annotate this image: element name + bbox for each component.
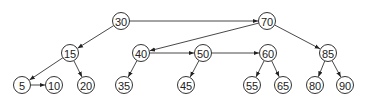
node-label: 35	[118, 80, 130, 92]
node-10: 10	[46, 77, 63, 94]
node-55: 55	[244, 77, 261, 94]
node-65: 65	[275, 77, 292, 94]
edge-15-to-5	[29, 58, 62, 80]
node-label: 40	[135, 48, 147, 60]
node-70: 70	[259, 13, 276, 30]
node-85: 85	[320, 45, 337, 62]
edge-70-to-85	[275, 25, 321, 49]
node-50: 50	[195, 45, 212, 62]
node-label: 20	[80, 80, 92, 92]
edge-30-to-15	[78, 26, 114, 49]
node-label: 50	[197, 48, 209, 60]
node-label: 60	[262, 48, 274, 60]
node-label: 10	[48, 80, 60, 92]
node-20: 20	[78, 77, 95, 94]
node-label: 85	[322, 48, 334, 60]
edge-60-to-65	[272, 61, 280, 77]
node-label: 5	[19, 80, 25, 92]
node-label: 30	[115, 16, 127, 28]
node-30: 30	[113, 13, 130, 30]
tree-diagram: 3070154050608551020354555658090	[0, 0, 366, 101]
edge-15-to-20	[74, 61, 82, 77]
node-label: 15	[64, 48, 76, 60]
edge-50-to-45	[190, 61, 199, 78]
node-40: 40	[133, 45, 150, 62]
node-label: 55	[246, 80, 258, 92]
node-90: 90	[337, 77, 354, 94]
node-35: 35	[116, 77, 133, 94]
node-5: 5	[14, 77, 31, 94]
node-15: 15	[62, 45, 79, 62]
node-label: 70	[261, 16, 273, 28]
node-60: 60	[260, 45, 277, 62]
edge-40-to-35	[128, 61, 137, 78]
node-80: 80	[307, 77, 324, 94]
edge-60-to-55	[256, 61, 264, 77]
node-45: 45	[178, 77, 195, 94]
node-label: 45	[180, 80, 192, 92]
edge-85-to-90	[332, 61, 341, 78]
node-label: 90	[339, 80, 351, 92]
edge-85-to-80	[318, 61, 324, 77]
node-label: 65	[277, 80, 289, 92]
node-label: 80	[309, 80, 321, 92]
